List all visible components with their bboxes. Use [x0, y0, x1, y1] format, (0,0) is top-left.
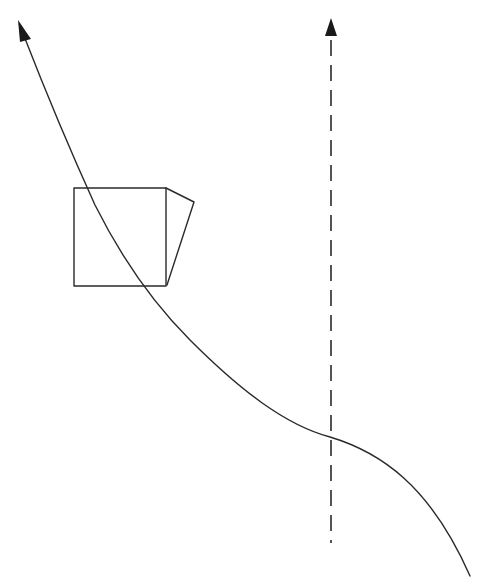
curved-trajectory-line — [24, 36, 470, 576]
box-front-face — [74, 188, 166, 286]
diagram-canvas — [0, 0, 488, 587]
curve-arrowhead-icon — [18, 20, 31, 42]
dashed-arrowhead-icon — [325, 18, 337, 36]
box-side-face — [166, 188, 194, 285]
